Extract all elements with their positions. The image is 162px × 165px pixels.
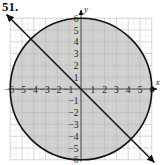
x-tick-label: −1 — [63, 85, 73, 95]
x-tick-label: 5 — [138, 85, 143, 95]
y-tick-label: 5 — [74, 26, 79, 36]
y-tick-label: −1 — [68, 96, 78, 106]
y-axis-label: y — [83, 4, 88, 14]
x-tick-label: −5 — [16, 85, 26, 95]
x-tick-label: 3 — [114, 85, 119, 95]
y-tick-label: −2 — [68, 108, 78, 118]
y-tick-label: −4 — [68, 132, 78, 142]
x-tick-label: 2 — [102, 85, 107, 95]
y-tick-label: −6 — [68, 155, 78, 165]
x-tick-label: −6 — [4, 85, 14, 95]
y-tick-label: 4 — [74, 37, 79, 47]
y-tick-label: −5 — [68, 144, 78, 154]
x-tick-label: 6 — [149, 85, 154, 95]
y-tick-label: 3 — [74, 49, 79, 59]
y-tick-label: 1 — [74, 73, 79, 83]
x-axis-label: x — [155, 77, 160, 87]
x-tick-label: −4 — [28, 85, 38, 95]
x-tick-label: 4 — [126, 85, 131, 95]
x-tick-label: −3 — [40, 85, 50, 95]
graph: −6−5−4−3−2−1123456654321−1−2−3−4−5−6xy — [0, 0, 162, 165]
x-tick-label: 1 — [90, 85, 95, 95]
y-tick-label: −3 — [68, 120, 78, 130]
y-tick-label: 6 — [74, 14, 79, 24]
x-tick-label: −2 — [51, 85, 61, 95]
y-tick-label: 2 — [74, 61, 79, 71]
